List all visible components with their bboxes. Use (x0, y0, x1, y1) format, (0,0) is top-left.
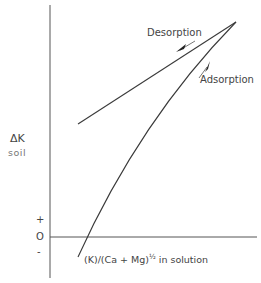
y-axis-label: ΔK (10, 133, 25, 144)
adsorption-curve (78, 22, 236, 257)
x-axis-label-main: (K)/(Ca + Mg) (84, 254, 149, 265)
adsorption-label: Adsorption (200, 75, 254, 85)
sign-minus: - (37, 247, 41, 257)
sign-plus: + (36, 215, 44, 225)
x-axis-label-exponent: ½ (149, 253, 156, 261)
x-axis-label-tail: in solution (156, 254, 208, 265)
desorption-label: Desorption (147, 28, 202, 38)
sign-zero: O (36, 232, 44, 242)
y-axis-sublabel: soil (8, 148, 26, 158)
x-axis-label: (K)/(Ca + Mg)½ in solution (84, 255, 208, 265)
